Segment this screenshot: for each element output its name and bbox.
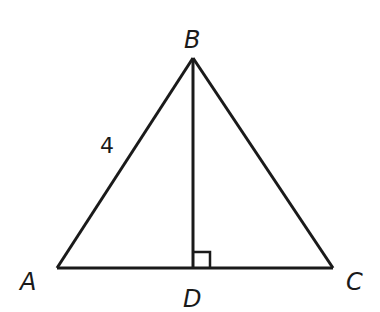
right-angle-marker xyxy=(193,252,210,268)
triangle-diagram: B A C D 4 xyxy=(0,0,380,312)
side-length-label-ab: 4 xyxy=(100,133,114,158)
vertex-label-d: D xyxy=(183,285,201,312)
segment-ab xyxy=(57,58,193,268)
vertex-label-c: C xyxy=(346,268,363,296)
vertex-label-a: A xyxy=(18,268,36,296)
segment-bc xyxy=(193,58,333,268)
vertex-label-b: B xyxy=(184,26,200,54)
